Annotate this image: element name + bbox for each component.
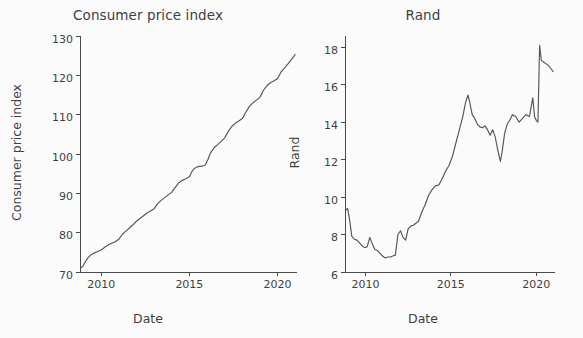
x-tick-label: 2020 xyxy=(522,278,550,291)
x-tick-label: 2015 xyxy=(175,278,203,291)
y-tick-label: 80 xyxy=(59,229,73,242)
plot-area-cpi: 708090100110120130201020152020 xyxy=(0,0,300,338)
y-tick-label: 100 xyxy=(52,151,73,164)
y-tick-label: 16 xyxy=(324,81,338,94)
y-tick-label: 18 xyxy=(324,44,338,57)
y-tick-label: 70 xyxy=(59,269,73,282)
y-tick-label: 6 xyxy=(331,269,338,282)
y-tick-label: 10 xyxy=(324,194,338,207)
y-tick-label: 8 xyxy=(331,231,338,244)
y-tick-label: 90 xyxy=(59,190,73,203)
plot-area-rand: 681012141618201020152020 xyxy=(283,0,583,338)
data-series-line xyxy=(81,54,295,267)
axis-spine xyxy=(345,36,555,272)
x-tick-label: 2015 xyxy=(437,278,465,291)
axis-spine xyxy=(80,36,297,272)
y-tick-label: 14 xyxy=(324,119,338,132)
data-series-line xyxy=(346,45,553,258)
panel-rand: Rand Rand Date 681012141618201020152020 xyxy=(283,0,583,338)
y-tick-label: 130 xyxy=(52,33,73,46)
panel-consumer-price-index: Consumer price index Consumer price inde… xyxy=(0,0,300,338)
y-tick-label: 12 xyxy=(324,156,338,169)
y-tick-label: 120 xyxy=(52,72,73,85)
x-tick-label: 2010 xyxy=(87,278,115,291)
y-tick-label: 110 xyxy=(52,111,73,124)
figure-canvas: Consumer price index Consumer price inde… xyxy=(0,0,583,338)
x-tick-label: 2010 xyxy=(351,278,379,291)
